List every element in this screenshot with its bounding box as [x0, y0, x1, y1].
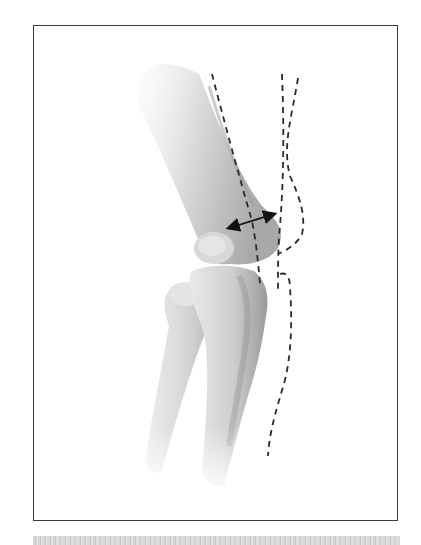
elbow-illustration: [34, 26, 399, 522]
vertical-reference-line: [278, 74, 283, 291]
figure-frame: [33, 25, 398, 521]
humerus-bone: [124, 56, 281, 264]
posterior-contour-line: [268, 78, 303, 456]
ulna-bone: [134, 266, 284, 496]
footer-bar: [33, 536, 400, 545]
